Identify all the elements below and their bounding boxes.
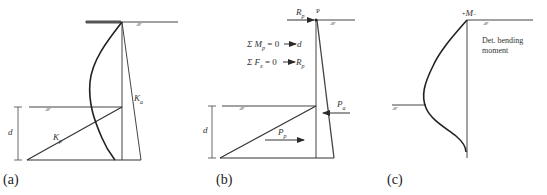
equation-moment-result: d: [297, 40, 302, 49]
label-pp: Pp: [278, 128, 287, 139]
caption-c: (c): [387, 173, 403, 187]
caption-b: (b): [216, 173, 232, 187]
active-pressure-line: [317, 20, 334, 158]
sheet-pile-diagram: [0, 0, 547, 195]
panel-a: [14, 22, 178, 160]
bending-moment-curve: [424, 20, 467, 152]
label-rp: Rp: [296, 8, 305, 19]
label-ka: Ka: [134, 94, 143, 105]
ground-hatch-b-top: ⁄⁄⁄⁄⁄⁄⁄⁄⁄⁄: [331, 21, 334, 26]
passive-pressure-line: [27, 107, 122, 160]
equation-force-result: Rp: [296, 58, 305, 69]
label-point-p: P: [316, 8, 320, 15]
ground-hatch-b-dredge: ⁄⁄⁄⁄⁄⁄⁄⁄⁄⁄: [240, 106, 243, 111]
label-bending-moment-line1: Det. bending: [482, 37, 523, 45]
ground-hatch-a-dredge: ⁄⁄⁄⁄⁄⁄⁄⁄⁄⁄: [46, 107, 49, 112]
label-kp: Kp: [53, 133, 62, 144]
label-moment: +M−: [462, 9, 476, 18]
pivot-point: [315, 19, 318, 22]
label-bending-moment-line2: moment: [482, 47, 508, 55]
label-depth-a: d: [8, 128, 13, 137]
label-pa: Pa: [337, 100, 346, 111]
equation-moment: Σ Mp = 0: [247, 40, 279, 51]
ground-hatch-a-top: ⁄⁄⁄⁄⁄⁄⁄⁄⁄⁄: [137, 22, 140, 27]
ground-hatch-c-top: ⁄⁄⁄⁄⁄⁄⁄⁄⁄⁄: [484, 21, 487, 26]
equation-force: Σ Fx = 0: [247, 58, 277, 69]
deflection-curve: [90, 22, 122, 160]
passive-pressure-line: [220, 106, 316, 158]
caption-a: (a): [3, 173, 19, 187]
active-pressure-line: [122, 22, 141, 160]
label-depth-b: d: [203, 126, 208, 135]
ground-hatch-c-dredge: ⁄⁄⁄⁄⁄⁄⁄⁄⁄⁄: [393, 106, 396, 111]
